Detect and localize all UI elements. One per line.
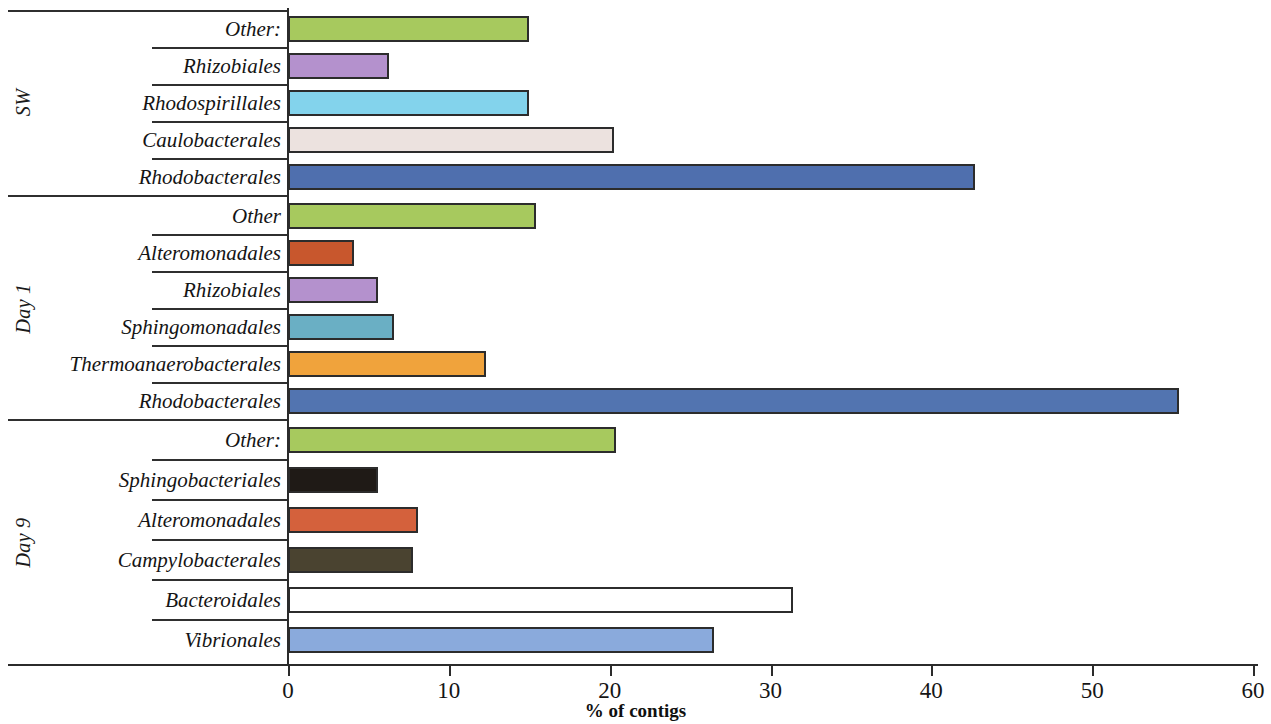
category-label: Sphingobacteriales — [119, 468, 281, 493]
group-divider-day1-day9 — [8, 419, 289, 421]
x-axis-tick — [449, 666, 451, 676]
category-divider — [152, 158, 289, 160]
category-divider — [152, 308, 289, 310]
category-label: Other: — [225, 17, 281, 42]
bar-day1-other — [288, 203, 536, 229]
group-divider-sw-day1 — [8, 195, 289, 197]
category-divider — [152, 382, 289, 384]
bar-day1-rhodobacterales — [288, 388, 1179, 414]
x-axis-title: % of contigs — [0, 700, 1271, 722]
x-axis-line — [8, 664, 1258, 666]
group-label-sw: SW — [0, 10, 48, 195]
horizontal-bar-chart: SW Day 1 Day 9 Other: Rhizobiales Rhodos… — [0, 0, 1271, 724]
category-label: Alteromonadales — [138, 508, 281, 533]
bar-sw-caulobacterales — [288, 127, 614, 153]
bar-day1-alteromonadales — [288, 240, 354, 266]
x-axis-tick — [1253, 666, 1255, 676]
bar-day9-other — [288, 427, 616, 453]
category-divider — [152, 539, 289, 541]
x-axis-tick — [610, 666, 612, 676]
bar-sw-rhodospirillales — [288, 90, 529, 116]
x-axis-tick — [771, 666, 773, 676]
category-label: Thermoanaerobacterales — [69, 352, 281, 377]
category-label: Rhizobiales — [183, 54, 281, 79]
category-label: Rhodobacterales — [139, 389, 281, 414]
category-divider — [152, 579, 289, 581]
y-axis-line — [287, 8, 289, 665]
bar-sw-rhodobacterales — [288, 164, 975, 190]
bar-day9-alteromonadales — [288, 507, 418, 533]
category-label: Other — [232, 204, 281, 229]
bar-day1-sphingomonadales — [288, 314, 394, 340]
category-label: Bacteroidales — [165, 588, 281, 613]
category-divider — [152, 47, 289, 49]
category-divider — [152, 121, 289, 123]
category-label: Rhizobiales — [183, 278, 281, 303]
bar-day1-thermoanaerobacterales — [288, 351, 486, 377]
category-divider — [152, 345, 289, 347]
group-label-day1: Day 1 — [0, 197, 48, 419]
bar-day9-bacteroidales — [288, 587, 793, 613]
category-divider — [152, 619, 289, 621]
group-divider-top — [8, 10, 289, 12]
group-label-day9-text: Day 9 — [13, 518, 36, 568]
group-label-sw-text: SW — [12, 89, 35, 116]
bar-sw-rhizobiales — [288, 53, 389, 79]
category-label: Other: — [225, 428, 281, 453]
category-label: Caulobacterales — [142, 128, 281, 153]
x-axis-tick — [1092, 666, 1094, 676]
category-label: Rhodobacterales — [139, 165, 281, 190]
category-divider — [152, 499, 289, 501]
category-divider — [152, 84, 289, 86]
category-label: Campylobacterales — [118, 548, 281, 573]
bar-day9-sphingobacteriales — [288, 467, 378, 493]
bar-day9-campylobacterales — [288, 547, 413, 573]
bar-day9-vibrionales — [288, 627, 714, 653]
category-divider — [152, 234, 289, 236]
bar-sw-other — [288, 16, 529, 42]
category-label: Vibrionales — [185, 628, 281, 653]
group-label-day1-text: Day 1 — [13, 283, 36, 333]
x-axis-tick — [288, 666, 290, 676]
x-axis-tick — [931, 666, 933, 676]
category-label: Sphingomonadales — [121, 315, 281, 340]
category-divider — [152, 459, 289, 461]
bar-day1-rhizobiales — [288, 277, 378, 303]
group-label-day9: Day 9 — [0, 421, 48, 664]
category-label: Rhodospirillales — [142, 91, 281, 116]
category-label: Alteromonadales — [138, 241, 281, 266]
category-divider — [152, 271, 289, 273]
